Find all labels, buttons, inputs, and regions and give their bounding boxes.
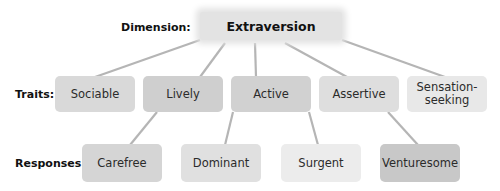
response-node-label: Surgent [298, 157, 343, 170]
response-node-label: Carefree [97, 157, 146, 170]
dimension-node-label: Extraversion [226, 20, 315, 33]
response-node-dominant: Dominant [181, 144, 261, 182]
row-label-dimension: Dimension: [121, 21, 191, 34]
trait-node-label: Lively [166, 88, 199, 101]
link-lively-carefree [130, 112, 157, 145]
trait-node-label: Assertive [332, 88, 385, 101]
link-active-dominant [225, 112, 233, 145]
trait-node-lively: Lively [143, 76, 223, 112]
link-extraversion-active [255, 43, 256, 77]
trait-node-active: Active [231, 76, 311, 112]
link-extraversion-sociable [95, 40, 200, 77]
dimension-node-extraversion: Extraversion [200, 12, 342, 40]
link-assertive-venturesome [388, 112, 418, 145]
link-extraversion-lively [200, 43, 225, 77]
trait-node-sensation-seeking: Sensation- seeking [407, 76, 487, 112]
link-active-surgent [309, 112, 318, 145]
response-node-carefree: Carefree [82, 144, 162, 182]
row-label-responses: Responses: [15, 157, 86, 170]
trait-node-label: Sociable [71, 88, 119, 101]
extraversion-hierarchy-diagram: Dimension: Traits: Responses: Extraversi… [0, 0, 500, 191]
trait-node-label: Active [253, 88, 289, 101]
response-node-surgent: Surgent [281, 144, 361, 182]
link-extraversion-assertive [285, 43, 347, 77]
response-node-label: Venturesome [382, 157, 458, 170]
response-node-label: Dominant [193, 157, 249, 170]
link-extraversion-sensation-seeking [342, 40, 445, 77]
trait-node-label: Sensation- seeking [417, 81, 478, 107]
trait-node-sociable: Sociable [55, 76, 135, 112]
response-node-venturesome: Venturesome [380, 144, 460, 182]
row-label-traits: Traits: [15, 88, 54, 101]
trait-node-assertive: Assertive [319, 76, 399, 112]
